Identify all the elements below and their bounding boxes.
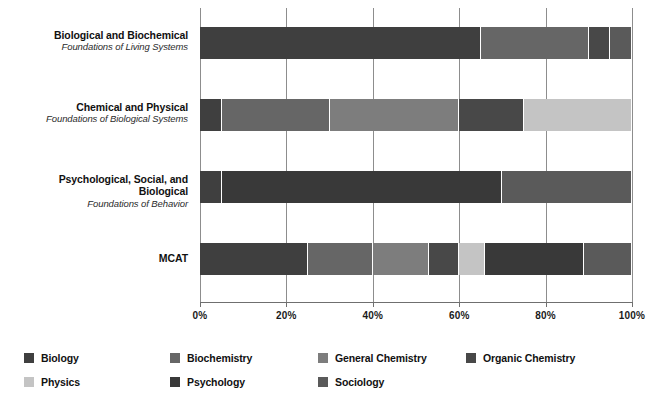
bar-segment-sociology[interactable] <box>502 171 631 203</box>
stacked-bar[interactable] <box>200 27 632 59</box>
stacked-bar[interactable] <box>200 243 632 275</box>
bar-segment-sociology[interactable] <box>584 243 631 275</box>
tick-mark <box>200 302 201 307</box>
bar-segment-psychology[interactable] <box>222 171 502 203</box>
row-label-primary: Psychological, Social, and Biological <box>12 173 188 198</box>
legend-label: General Chemistry <box>335 352 427 364</box>
bar-segment-biology[interactable] <box>200 243 307 275</box>
stacked-bar[interactable] <box>200 171 632 203</box>
legend-swatch-icon <box>170 377 180 387</box>
legend-item-psychology[interactable]: Psychology <box>170 376 245 388</box>
legend-label: Biology <box>41 352 79 364</box>
x-tick-label: 0% <box>170 310 230 321</box>
row-label-primary: MCAT <box>12 252 188 264</box>
bar-segment-organic-chemistry[interactable] <box>429 243 458 275</box>
legend-item-biology[interactable]: Biology <box>24 352 79 364</box>
legend-label: Psychology <box>187 376 245 388</box>
bar-segment-general-chemistry[interactable] <box>330 99 459 131</box>
tick-mark <box>459 302 460 307</box>
legend-swatch-icon <box>318 353 328 363</box>
legend-item-sociology[interactable]: Sociology <box>318 376 384 388</box>
legend-label: Physics <box>41 376 80 388</box>
bar-segment-biochemistry[interactable] <box>481 27 588 59</box>
tick-mark <box>632 302 633 307</box>
x-axis-line <box>200 302 633 303</box>
row-label: Chemical and PhysicalFoundations of Biol… <box>12 101 200 125</box>
legend-item-organic-chemistry[interactable]: Organic Chemistry <box>466 352 575 364</box>
chart-legend: BiologyBiochemistryGeneral ChemistryOrga… <box>0 344 651 400</box>
legend-label: Sociology <box>335 376 384 388</box>
bar-segment-biochemistry[interactable] <box>308 243 372 275</box>
chart-row: Chemical and PhysicalFoundations of Biol… <box>0 99 651 131</box>
bar-segment-psychology[interactable] <box>485 243 583 275</box>
legend-swatch-icon <box>466 353 476 363</box>
x-tick-label: 100% <box>602 310 651 321</box>
row-label: Psychological, Social, and BiologicalFou… <box>12 173 200 209</box>
bar-segment-physics[interactable] <box>524 99 631 131</box>
bar-segment-biology[interactable] <box>200 27 480 59</box>
legend-item-biochemistry[interactable]: Biochemistry <box>170 352 252 364</box>
legend-swatch-icon <box>170 353 180 363</box>
tick-mark <box>373 302 374 307</box>
legend-item-physics[interactable]: Physics <box>24 376 80 388</box>
bar-segment-general-chemistry[interactable] <box>373 243 428 275</box>
legend-label: Biochemistry <box>187 352 252 364</box>
chart-row: Psychological, Social, and BiologicalFou… <box>0 171 651 203</box>
legend-swatch-icon <box>318 377 328 387</box>
legend-swatch-icon <box>24 377 34 387</box>
chart-row: Biological and BiochemicalFoundations of… <box>0 27 651 59</box>
row-label-secondary: Foundations of Behavior <box>12 198 188 209</box>
legend-item-general-chemistry[interactable]: General Chemistry <box>318 352 427 364</box>
row-label-secondary: Foundations of Living Systems <box>12 41 188 52</box>
legend-swatch-icon <box>24 353 34 363</box>
bar-segment-organic-chemistry[interactable] <box>589 27 610 59</box>
stacked-bar-chart: Biological and BiochemicalFoundations of… <box>0 0 651 405</box>
row-label-primary: Chemical and Physical <box>12 101 188 113</box>
row-label-primary: Biological and Biochemical <box>12 29 188 41</box>
chart-row: MCAT <box>0 243 651 275</box>
x-tick-label: 80% <box>516 310 576 321</box>
bar-segment-organic-chemistry[interactable] <box>459 99 523 131</box>
bar-segment-sociology[interactable] <box>610 27 631 59</box>
bar-segment-biochemistry[interactable] <box>222 99 329 131</box>
row-label-secondary: Foundations of Biological Systems <box>12 113 188 124</box>
row-label: Biological and BiochemicalFoundations of… <box>12 29 200 53</box>
bar-segment-biology[interactable] <box>200 99 221 131</box>
legend-label: Organic Chemistry <box>483 352 575 364</box>
x-tick-label: 40% <box>343 310 403 321</box>
bar-segment-physics[interactable] <box>459 243 484 275</box>
tick-mark <box>546 302 547 307</box>
x-tick-label: 60% <box>429 310 489 321</box>
stacked-bar[interactable] <box>200 99 632 131</box>
tick-mark <box>286 302 287 307</box>
x-tick-label: 20% <box>256 310 316 321</box>
row-label: MCAT <box>12 252 200 264</box>
bar-segment-biology[interactable] <box>200 171 221 203</box>
